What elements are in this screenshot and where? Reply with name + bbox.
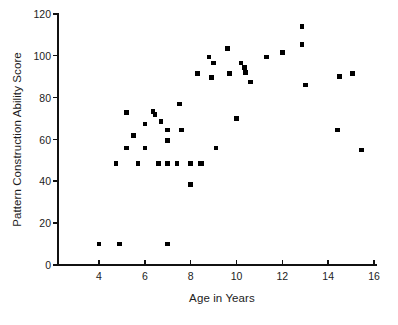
- data-point: [207, 55, 212, 60]
- y-axis-tick-mark: [53, 97, 57, 99]
- x-axis-tick-mark: [144, 260, 146, 264]
- data-point: [243, 70, 248, 75]
- y-axis-tick: 20: [20, 217, 57, 229]
- data-point: [359, 148, 364, 153]
- y-axis-tick-label: 0: [45, 259, 51, 271]
- y-axis-tick-mark: [53, 264, 57, 266]
- data-point: [117, 242, 122, 247]
- x-axis-tick-label: 8: [179, 270, 203, 282]
- x-axis-tick-mark: [190, 260, 192, 264]
- y-axis-tick-label: 40: [39, 175, 51, 187]
- y-axis-tick-mark: [53, 13, 57, 15]
- data-point: [165, 138, 170, 143]
- data-point: [200, 161, 205, 166]
- y-axis-tick-label: 100: [33, 50, 51, 62]
- y-axis-tick-mark: [53, 55, 57, 57]
- y-axis-line: [57, 13, 59, 266]
- data-point: [124, 146, 129, 151]
- data-point: [143, 122, 148, 127]
- y-axis-tick: 0: [20, 259, 57, 271]
- data-point: [337, 74, 342, 79]
- y-axis-tick: 100: [20, 50, 57, 62]
- y-axis-tick-mark: [53, 139, 57, 141]
- data-point: [165, 128, 170, 133]
- x-axis-tick-mark: [373, 260, 375, 264]
- data-point: [124, 110, 129, 115]
- data-point: [177, 102, 182, 107]
- y-axis-tick: 60: [20, 134, 57, 146]
- data-point: [300, 24, 305, 29]
- scatter-plot-figure: Pattern Construction Ability Score 02040…: [0, 0, 398, 325]
- y-axis-tick-label: 80: [39, 92, 51, 104]
- data-point: [153, 112, 158, 117]
- data-point: [131, 133, 136, 138]
- data-point: [303, 83, 308, 88]
- x-axis-tick-label: 4: [87, 270, 111, 282]
- x-axis-line: [57, 264, 377, 266]
- y-axis-tick: 120: [20, 8, 57, 20]
- data-point: [214, 146, 219, 151]
- data-point: [195, 71, 200, 76]
- y-axis-tick: 40: [20, 175, 57, 187]
- data-point: [335, 128, 340, 133]
- y-axis-tick-mark: [53, 180, 57, 182]
- data-point: [234, 116, 239, 121]
- y-axis-tick-label: 60: [39, 134, 51, 146]
- data-point: [209, 75, 214, 80]
- y-axis-tick: 80: [20, 92, 57, 104]
- data-point: [165, 242, 170, 247]
- data-point: [248, 80, 253, 85]
- x-axis-tick-label: 14: [316, 270, 340, 282]
- data-point: [179, 128, 184, 133]
- x-axis-tick-mark: [327, 260, 329, 264]
- data-point: [175, 161, 180, 166]
- data-point: [97, 242, 102, 247]
- x-axis-tick-label: 10: [225, 270, 249, 282]
- x-axis-tick-mark: [236, 260, 238, 264]
- data-point: [350, 71, 355, 76]
- data-point: [225, 46, 230, 51]
- data-point: [264, 55, 269, 60]
- data-point: [136, 161, 141, 166]
- y-axis-tick-label: 20: [39, 217, 51, 229]
- data-point: [227, 71, 232, 76]
- x-axis-tick-label: 6: [133, 270, 157, 282]
- data-point: [165, 161, 170, 166]
- x-axis-tick-mark: [98, 260, 100, 264]
- y-axis-tick-label: 120: [33, 8, 51, 20]
- data-point: [188, 182, 193, 187]
- y-axis-tick-mark: [53, 222, 57, 224]
- data-point: [188, 161, 193, 166]
- x-axis-tick-mark: [282, 260, 284, 264]
- data-point: [280, 50, 285, 55]
- data-point: [211, 61, 216, 66]
- data-point: [143, 146, 148, 151]
- data-point: [159, 119, 164, 124]
- x-axis-tick-label: 12: [270, 270, 294, 282]
- x-axis-title: Age in Years: [57, 292, 387, 304]
- data-point: [300, 42, 305, 47]
- data-point: [242, 65, 247, 70]
- data-point: [114, 161, 119, 166]
- x-axis-tick-label: 16: [362, 270, 386, 282]
- data-point: [156, 161, 161, 166]
